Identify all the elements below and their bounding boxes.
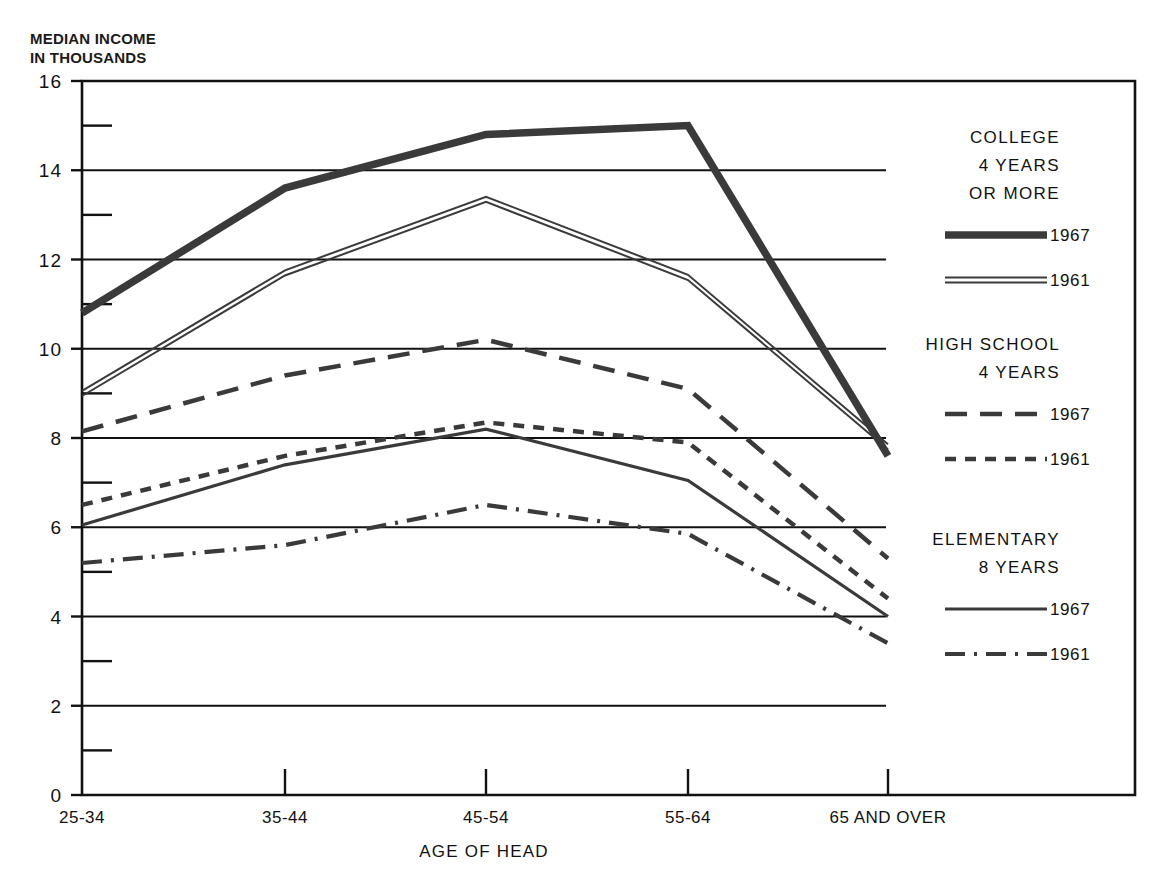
legend-entry-label: 1961: [1050, 645, 1090, 664]
series-line: [82, 429, 888, 616]
series-line: [82, 422, 888, 598]
series-line: [82, 340, 888, 559]
x-tick-label: 35-44: [262, 808, 308, 827]
x-axis-ticks: [285, 769, 888, 795]
y-tick-label: 10: [39, 339, 62, 360]
y-tick-label: 6: [50, 517, 62, 538]
series-line: [82, 126, 888, 456]
legend-group-title-line: HIGH SCHOOL: [926, 335, 1060, 354]
y-tick-label: 14: [39, 160, 62, 181]
x-tick-label: 55-64: [665, 808, 711, 827]
x-tick-label: 65 AND OVER: [830, 808, 947, 827]
legend-group-title-line: ELEMENTARY: [932, 530, 1060, 549]
y-tick-labels: 0246810121416: [39, 71, 62, 806]
legend-entry: 1967: [945, 600, 1090, 619]
x-axis-title: AGE OF HEAD: [419, 842, 548, 861]
chart-root: MEDIAN INCOME IN THOUSANDS 0246810121416…: [0, 0, 1161, 885]
legend-entry-label: 1961: [1050, 450, 1090, 469]
legend-entry-label: 1967: [1050, 226, 1090, 245]
x-tick-label: 25-34: [59, 808, 105, 827]
y-tick-label: 16: [39, 71, 62, 92]
legend: COLLEGE4 YEARSOR MORE19671961HIGH SCHOOL…: [926, 128, 1091, 664]
y-tick-label: 8: [50, 428, 62, 449]
y-tick-label: 2: [50, 696, 62, 717]
line-chart-plot: 0246810121416 25-3435-4445-5455-6465 AND…: [0, 0, 1161, 885]
x-axis-title-text: AGE OF HEAD: [419, 842, 548, 861]
legend-entry-label: 1961: [1050, 271, 1090, 290]
legend-group-title-line: 4 YEARS: [979, 156, 1060, 175]
data-series-group: [82, 126, 888, 644]
y-tick-label: 12: [39, 250, 62, 271]
x-tick-label: 45-54: [463, 808, 509, 827]
legend-entry: 1961: [945, 450, 1090, 469]
legend-group-title-line: 8 YEARS: [979, 558, 1060, 577]
legend-entry: 1961: [945, 645, 1090, 664]
x-tick-labels: 25-3435-4445-5455-6465 AND OVER: [59, 808, 946, 827]
series-line: [82, 505, 888, 643]
legend-group-title-line: OR MORE: [969, 184, 1060, 203]
y-tick-label: 0: [50, 785, 62, 806]
legend-entry: 1961: [945, 271, 1090, 290]
legend-group-title-line: COLLEGE: [970, 128, 1060, 147]
legend-entry: 1967: [945, 226, 1090, 245]
legend-entry-label: 1967: [1050, 600, 1090, 619]
legend-group-title-line: 4 YEARS: [979, 363, 1060, 382]
legend-entry-label: 1967: [1050, 405, 1090, 424]
legend-entry: 1967: [945, 405, 1090, 424]
y-tick-label: 4: [50, 607, 62, 628]
